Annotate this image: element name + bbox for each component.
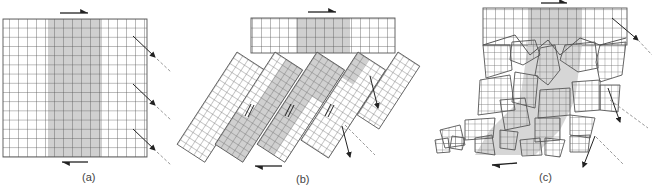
panel-b bbox=[177, 12, 420, 166]
grid bbox=[3, 19, 147, 157]
top-layer-grid bbox=[483, 8, 627, 45]
shear-diagram bbox=[0, 0, 652, 190]
shear-arrow-bottom-icon bbox=[492, 163, 517, 165]
panel-label-a: (a) bbox=[82, 171, 95, 183]
rotated-blocks bbox=[177, 52, 420, 162]
panel-a bbox=[3, 13, 171, 165]
panel-c bbox=[435, 3, 652, 167]
breccia-fragments bbox=[435, 40, 626, 157]
figure-stage: (a) (b) (c) bbox=[0, 0, 652, 190]
panel-label-b: (b) bbox=[296, 173, 309, 185]
panel-label-c: (c) bbox=[539, 171, 552, 183]
top-layer-grid bbox=[251, 18, 395, 53]
